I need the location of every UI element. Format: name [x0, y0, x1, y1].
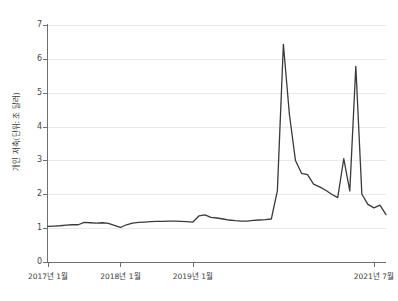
y-tick-5: 5 — [12, 88, 42, 98]
y-tick-label-3: 3 — [18, 155, 42, 164]
y-tick-label-4: 4 — [18, 122, 42, 131]
y-tick-label-0: 0 — [18, 257, 42, 266]
y-tick-label-7: 7 — [18, 20, 42, 29]
y-tick-3: 3 — [12, 155, 42, 165]
series-line — [48, 44, 386, 227]
y-tick-label-5: 5 — [18, 88, 42, 97]
y-tick-4: 4 — [12, 122, 42, 132]
x-tick-label-0: 2017년 1월 — [8, 270, 88, 281]
y-tick-2: 2 — [12, 189, 42, 199]
x-tick-mark-3 — [374, 262, 375, 267]
y-tick-label-2: 2 — [18, 189, 42, 198]
x-axis-spine — [48, 262, 386, 263]
x-tick-mark-0 — [48, 262, 49, 267]
x-tick-label-1: 2018년 1월 — [80, 270, 160, 281]
series-personal-savings — [48, 25, 386, 262]
x-tick-mark-2 — [193, 262, 194, 267]
x-tick-mark-1 — [120, 262, 121, 267]
y-tick-1: 1 — [12, 223, 42, 233]
y-tick-label-1: 1 — [18, 223, 42, 232]
x-tick-label-2: 2019년 1월 — [153, 270, 233, 281]
y-tick-7: 7 — [12, 20, 42, 30]
x-tick-label-3: 2021년 7월 — [334, 270, 398, 281]
y-tick-0: 0 — [12, 257, 42, 267]
y-tick-label-6: 6 — [18, 54, 42, 63]
y-tick-6: 6 — [12, 54, 42, 64]
